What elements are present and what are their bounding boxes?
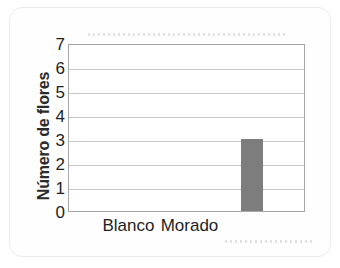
y-tick-label: 0 bbox=[45, 204, 65, 221]
y-axis-tick-labels: 01234567 bbox=[45, 44, 65, 212]
bar-chart: Número de flores 01234567 BlancoMorado bbox=[0, 0, 340, 268]
x-axis-category-labels: BlancoMorado bbox=[68, 216, 305, 240]
x-axis-label: Morado bbox=[161, 216, 219, 236]
y-tick-label: 1 bbox=[45, 180, 65, 197]
bar bbox=[241, 139, 263, 211]
y-tick-label: 4 bbox=[45, 108, 65, 125]
scanned-page: Número de flores 01234567 BlancoMorado bbox=[0, 0, 340, 268]
y-tick-label: 7 bbox=[45, 36, 65, 53]
y-tick-label: 2 bbox=[45, 156, 65, 173]
y-tick-label: 6 bbox=[45, 60, 65, 77]
x-axis-label: Blanco bbox=[103, 216, 155, 236]
bar-series bbox=[69, 45, 304, 211]
plot-area bbox=[68, 44, 305, 212]
y-tick-label: 5 bbox=[45, 84, 65, 101]
y-tick-label: 3 bbox=[45, 132, 65, 149]
